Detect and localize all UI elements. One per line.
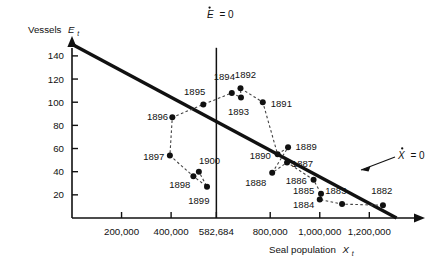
- x-tick-label: 800,000: [253, 226, 289, 237]
- point-label-1899: 1899: [188, 195, 209, 206]
- data-point-1896: [169, 114, 175, 120]
- x-tick-label: 1,000,000: [298, 226, 342, 237]
- phase-plane-chart: 20406080100120140 200,000400,000582,6848…: [0, 0, 441, 261]
- edot-label: E = 0: [207, 9, 234, 20]
- x-axis-title: Seal population X t: [269, 244, 355, 257]
- figure-container: 20406080100120140 200,000400,000582,6848…: [0, 0, 441, 261]
- xdot-label: X = 0: [397, 150, 425, 161]
- x-tick-label: 200,000: [104, 226, 140, 237]
- data-point-1886: [311, 177, 317, 183]
- point-label-1897: 1897: [143, 151, 164, 162]
- point-label-1886: 1886: [286, 175, 307, 186]
- data-point-1891: [260, 99, 266, 105]
- data-point-1893: [238, 95, 244, 101]
- y-tick-label: 100: [48, 97, 65, 108]
- y-tick-label: 20: [53, 189, 64, 200]
- data-point-labels: 1882188318841885188618871888188918901891…: [143, 69, 392, 210]
- y-axis-title-main: Vessels: [28, 24, 62, 35]
- x-tick-label: 1,200,000: [348, 226, 392, 237]
- point-label-1889: 1889: [296, 141, 317, 152]
- point-label-1888: 1888: [245, 177, 266, 188]
- point-label-1898: 1898: [169, 179, 190, 190]
- data-point-1883: [339, 201, 345, 207]
- point-label-1895: 1895: [184, 86, 205, 97]
- xdot-isocline-annotation: X = 0: [397, 147, 425, 161]
- y-tick-label: 80: [53, 120, 64, 131]
- data-point-1899: [204, 184, 210, 190]
- edot-isocline-annotation: E = 0: [207, 6, 234, 20]
- y-tick-label: 140: [48, 50, 65, 61]
- edot-overdot-icon: [208, 6, 210, 8]
- x-axis-title-main: Seal population: [269, 244, 336, 255]
- xdot-overdot-icon: [401, 147, 403, 149]
- point-label-1900: 1900: [199, 155, 220, 166]
- y-axis-title: Vessels E t: [28, 24, 80, 37]
- y-tick-label: 120: [48, 74, 65, 85]
- y-axis-tick-labels: 20406080100120140: [48, 50, 65, 200]
- data-point-1889: [285, 144, 291, 150]
- data-point-1895: [200, 102, 206, 108]
- data-point-1882: [380, 202, 386, 208]
- point-label-1891: 1891: [271, 98, 292, 109]
- point-label-1896: 1896: [147, 111, 168, 122]
- point-label-1883: 1883: [325, 185, 346, 196]
- x-axis-tick-labels: 200,000400,000582,684800,0001,000,0001,2…: [104, 226, 391, 237]
- x-axis-title-subscript: t: [352, 250, 355, 257]
- data-point-1898: [190, 173, 196, 179]
- point-label-1892: 1892: [235, 69, 256, 80]
- data-point-1890: [275, 151, 281, 157]
- data-point-1884: [317, 196, 323, 202]
- point-label-1894: 1894: [214, 71, 235, 82]
- x-axis-title-var: X: [342, 244, 350, 255]
- data-point-1900: [196, 169, 202, 175]
- edot-equals-zero: = 0: [219, 9, 234, 20]
- edot-variable: E: [207, 9, 214, 20]
- data-point-1892: [237, 85, 243, 91]
- data-point-1888: [269, 170, 275, 176]
- data-point-1894: [229, 90, 235, 96]
- x-tick-label: 582,684: [199, 226, 235, 237]
- point-label-1884: 1884: [293, 199, 314, 210]
- y-axis-title-var: E: [68, 24, 75, 35]
- y-tick-label: 60: [53, 143, 64, 154]
- data-point-1885: [318, 191, 324, 197]
- point-label-1890: 1890: [250, 150, 271, 161]
- x-tick-label: 400,000: [154, 226, 190, 237]
- data-point-1897: [167, 152, 173, 158]
- point-label-1887: 1887: [292, 158, 313, 169]
- y-axis-title-subscript: t: [77, 30, 80, 37]
- x-axis-arrowhead: [414, 213, 425, 222]
- y-tick-label: 40: [53, 166, 64, 177]
- xdot-equals-zero: = 0: [410, 150, 425, 161]
- point-label-1893: 1893: [228, 106, 249, 117]
- xdot-variable: X: [397, 150, 405, 161]
- point-label-1882: 1882: [371, 185, 392, 196]
- data-point-1887: [284, 159, 290, 165]
